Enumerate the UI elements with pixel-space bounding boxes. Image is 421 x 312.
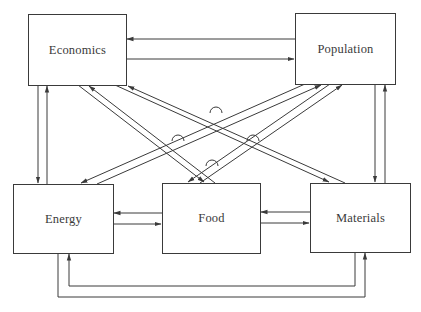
node-label: Population bbox=[317, 42, 373, 57]
node-population: Population bbox=[295, 13, 396, 85]
node-label: Energy bbox=[45, 212, 82, 227]
node-energy: Energy bbox=[13, 184, 114, 254]
arrow-economics-to-food bbox=[78, 85, 204, 182]
node-materials: Materials bbox=[310, 183, 411, 253]
node-label: Food bbox=[198, 211, 225, 226]
crossover-hump bbox=[210, 107, 222, 113]
arrow-materials-to-energy bbox=[69, 252, 355, 286]
node-label: Economics bbox=[49, 43, 106, 58]
arrow-energy-to-population bbox=[97, 85, 321, 184]
arrow-food-to-economics bbox=[89, 86, 215, 183]
arrow-energy-to-materials bbox=[58, 253, 365, 297]
arrow-food-to-population bbox=[200, 85, 342, 183]
arrow-materials-to-economics bbox=[128, 86, 345, 183]
node-economics: Economics bbox=[28, 14, 127, 86]
system-diagram: Economics Population Energy Food Materia… bbox=[0, 0, 421, 312]
node-label: Materials bbox=[336, 211, 385, 226]
node-food: Food bbox=[162, 183, 261, 254]
